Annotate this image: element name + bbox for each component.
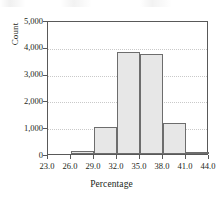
y-axis-tick-label: 3,000 — [16, 70, 43, 79]
x-axis-tick-mark — [185, 155, 186, 159]
bar — [117, 52, 140, 154]
x-axis-tick-mark — [139, 155, 140, 159]
y-axis-tick-label: 4,000 — [16, 43, 43, 52]
bar — [186, 152, 209, 154]
x-axis-title: Percentage — [0, 178, 223, 190]
bar — [71, 151, 94, 154]
bar — [163, 123, 186, 154]
gridline — [48, 49, 207, 50]
y-axis-tick-label: 5,000 — [16, 17, 43, 26]
x-axis-tick-mark — [208, 155, 209, 159]
x-axis-tick-mark — [162, 155, 163, 159]
plot-area — [47, 21, 208, 155]
x-axis-tick-mark — [70, 155, 71, 159]
histogram-figure: Count 01,0002,0003,0004,0005,000 23.026.… — [0, 0, 223, 199]
x-axis-tick-mark — [116, 155, 117, 159]
y-axis-tick-label: 2,000 — [16, 97, 43, 106]
x-axis-tick-label: 44.0 — [195, 161, 221, 171]
x-axis-tick-mark — [47, 155, 48, 159]
bar — [94, 127, 117, 154]
y-axis-tick-label: 0 — [16, 151, 43, 160]
y-axis-tick-label: 1,000 — [16, 124, 43, 133]
x-axis-tick-mark — [93, 155, 94, 159]
bar — [140, 54, 163, 154]
